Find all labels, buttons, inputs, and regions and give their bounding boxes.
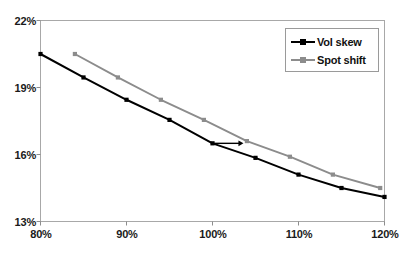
chart-container: 22% 19% 16% 13% 80% 90% 100% 110% 120% V… bbox=[0, 0, 406, 255]
legend-marker-icon-vol-skew bbox=[291, 36, 315, 48]
series-spot-shift bbox=[73, 52, 383, 190]
legend-item-spot-shift[interactable]: Spot shift bbox=[291, 51, 373, 69]
legend-label-vol-skew: Vol skew bbox=[317, 36, 362, 48]
legend-marker-icon-spot-shift bbox=[291, 54, 315, 66]
series-vol-skew bbox=[38, 52, 386, 199]
legend-item-vol-skew[interactable]: Vol skew bbox=[291, 33, 373, 51]
chart-legend: Vol skew Spot shift bbox=[285, 28, 379, 72]
legend-label-spot-shift: Spot shift bbox=[317, 54, 366, 66]
